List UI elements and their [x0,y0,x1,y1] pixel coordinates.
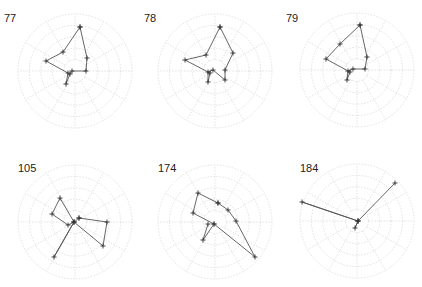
data-point-marker [218,25,223,30]
data-point-marker [85,56,90,61]
data-point-marker [204,53,209,58]
data-point-marker [345,78,350,83]
data-point-marker [365,55,370,60]
radar-panel-4: 105 [18,162,132,279]
data-point-marker [44,59,49,64]
panel-title: 79 [286,12,298,24]
data-point-marker [50,212,55,217]
data-point-marker [351,67,356,72]
radar-chart-grid: 77 78 79 105 174 184 [0,0,422,287]
data-point-marker [353,226,358,231]
radar-panel-1: 77 [4,12,132,128]
panel-title: 77 [4,12,16,24]
data-point-marker [363,67,368,72]
data-point-marker [105,220,110,225]
data-point-marker [64,82,69,87]
data-point-marker [300,200,305,205]
radar-panel-2: 78 [144,12,272,128]
data-point-marker [231,51,236,56]
panel-title: 174 [158,162,176,174]
data-point-marker [58,196,63,201]
data-point-marker [84,69,89,74]
radar-panel-6: 184 [300,162,415,278]
data-point-marker [66,223,71,228]
polar-grid [158,165,272,279]
panel-title: 78 [144,12,156,24]
polar-grid [300,13,414,127]
panel-title: 105 [18,162,36,174]
radar-panel-3: 79 [286,12,414,127]
data-point-marker [78,25,83,30]
radar-panel-5: 174 [158,162,272,279]
panel-title: 184 [300,162,318,174]
data-point-marker [206,80,211,85]
polar-grid [158,14,272,128]
data-point-marker [201,238,206,243]
data-series-line [185,27,233,82]
